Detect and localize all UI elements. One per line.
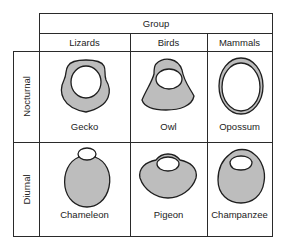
grid-right-border xyxy=(272,13,273,237)
cell-opossum-label: Opossum xyxy=(207,121,272,132)
row-label-diurnal: Diurnal xyxy=(21,154,32,226)
cell-pigeon-label: Pigeon xyxy=(130,209,207,220)
cell-chameleon-label: Chameleon xyxy=(39,209,130,220)
cell-owl-label: Owl xyxy=(130,121,207,132)
grid-subheader-divider xyxy=(13,51,273,52)
cell-gecko-label: Gecko xyxy=(39,121,130,132)
grid-col-divider-1 xyxy=(130,33,131,237)
opossum-pupil-icon xyxy=(218,57,264,115)
chameleon-pupil-icon xyxy=(62,145,112,209)
grid-col-divider-2 xyxy=(207,33,208,237)
column-header-lizards: Lizards xyxy=(39,37,130,48)
grid-left-border xyxy=(13,51,14,237)
grid-top-border xyxy=(39,13,273,14)
gecko-pupil-icon xyxy=(58,56,114,116)
row-label-nocturnal: Nocturnal xyxy=(21,61,32,133)
owl-pupil-icon xyxy=(140,58,196,114)
group-header: Group xyxy=(39,18,273,29)
pigeon-pupil-icon xyxy=(138,152,198,200)
chimpanzee-pupil-icon xyxy=(216,148,266,204)
column-header-mammals: Mammals xyxy=(207,37,272,48)
grid-row-divider xyxy=(13,142,273,143)
cell-champanzee-label: Champanzee xyxy=(207,209,272,220)
grid-header-divider xyxy=(39,33,273,34)
column-header-birds: Birds xyxy=(130,37,207,48)
grid-bottom-border xyxy=(13,236,273,237)
